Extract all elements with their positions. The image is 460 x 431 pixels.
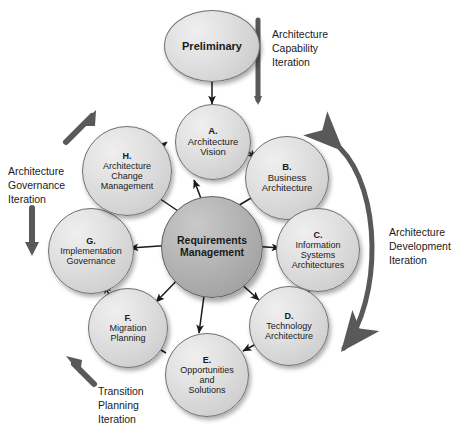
node-phase-c-letter: C. <box>292 230 345 240</box>
node-phase-d-label-1: Technology <box>266 321 312 331</box>
node-phase-h[interactable]: H. Architecture Change Management <box>82 126 172 216</box>
node-phase-f[interactable]: F. Migration Planning <box>88 288 168 368</box>
hub-label-2: Management <box>180 246 244 258</box>
node-phase-a-label-1: Architecture <box>188 136 239 147</box>
node-phase-e[interactable]: E. Opportunities and Solutions <box>165 333 249 417</box>
node-phase-b-label-2: Architecture <box>262 182 313 193</box>
label-transition-planning-iteration: Transition Planning Iteration <box>98 385 144 427</box>
adm-diagram: Preliminary A. Architecture Vision B. Bu… <box>0 0 460 431</box>
node-preliminary-label: Preliminary <box>178 40 246 52</box>
node-requirements-management[interactable]: Requirements Management <box>161 196 263 298</box>
label-architecture-development-iteration: Architecture Development Iteration <box>389 226 451 268</box>
node-phase-e-letter: E. <box>180 355 234 365</box>
node-preliminary[interactable]: Preliminary <box>164 10 260 82</box>
node-phase-h-label-1: Architecture <box>103 161 151 171</box>
node-phase-b-label-1: Business <box>268 172 307 183</box>
node-phase-d-letter: D. <box>265 311 313 321</box>
node-phase-c-label-1: Information <box>295 240 340 250</box>
node-phase-f-letter: F. <box>109 313 146 323</box>
node-phase-a-label-2: Vision <box>200 146 226 157</box>
node-phase-d[interactable]: D. Technology Architecture <box>249 286 329 366</box>
node-phase-h-label-3: Management <box>101 181 154 191</box>
node-phase-f-label-1: Migration <box>109 323 146 333</box>
node-phase-g-label-1: Implementation <box>60 246 122 256</box>
node-phase-g-letter: G. <box>60 236 122 246</box>
node-phase-a[interactable]: A. Architecture Vision <box>175 104 251 180</box>
label-architecture-capability-iteration: Architecture Capability Iteration <box>272 28 328 70</box>
node-phase-h-label-2: Change <box>111 171 143 181</box>
node-phase-c[interactable]: C. Information Systems Architectures <box>276 208 360 292</box>
node-phase-f-label-2: Planning <box>110 333 145 343</box>
node-phase-g[interactable]: G. Implementation Governance <box>48 208 134 294</box>
node-phase-c-label-2: Systems <box>301 250 336 260</box>
hub-label-1: Requirements <box>177 234 247 246</box>
node-phase-e-label-2: and <box>199 375 214 385</box>
node-phase-c-label-3: Architectures <box>292 260 345 270</box>
node-phase-h-letter: H. <box>101 151 154 161</box>
node-phase-d-label-2: Architecture <box>265 331 313 341</box>
label-architecture-governance-iteration: Architecture Governance Iteration <box>8 165 65 207</box>
node-phase-e-label-1: Opportunities <box>180 365 234 375</box>
node-phase-g-label-2: Governance <box>66 256 115 266</box>
node-phase-e-label-3: Solutions <box>188 385 225 395</box>
